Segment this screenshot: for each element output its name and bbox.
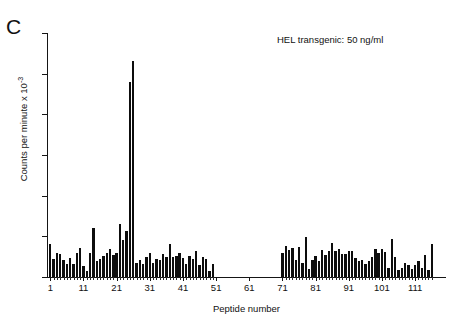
x-axis-tick [117,277,118,281]
plot-area [47,33,445,277]
bar [288,250,290,277]
bar [69,258,71,277]
x-axis-tick-label: 1 [48,283,53,293]
x-axis-tick-label: 91 [344,283,355,293]
x-axis-minor-tick [342,277,343,280]
x-axis-tick-label: 101 [374,283,390,293]
bar [411,269,413,277]
bar [115,253,117,277]
x-axis-minor-tick [210,277,211,280]
x-axis-minor-tick [213,277,214,280]
bar [129,82,131,277]
x-axis-minor-tick [292,277,293,280]
x-axis-minor-tick [299,277,300,280]
bar [427,270,429,277]
bar [112,255,114,277]
bar [301,263,303,277]
bar [135,263,137,277]
x-axis-minor-tick [362,277,363,280]
bar [79,248,81,277]
bar [298,247,300,277]
bar [328,251,330,277]
bar [414,265,416,277]
x-axis-tick-label: 11 [79,283,89,293]
x-axis-minor-tick [402,277,403,280]
bar [324,255,326,277]
x-axis-minor-tick [289,277,290,280]
bar [132,61,134,277]
x-axis-minor-tick [64,277,65,280]
x-axis-minor-tick [319,277,320,280]
x-axis-tick [83,277,84,281]
bar [102,256,104,277]
bar [351,251,353,277]
bar [82,266,84,277]
bar [358,261,360,277]
x-axis-minor-tick [60,277,61,280]
x-axis-minor-tick [97,277,98,280]
x-axis-minor-tick [186,277,187,280]
x-axis-minor-tick [180,277,181,280]
x-axis-minor-tick [57,277,58,280]
bar [397,270,399,277]
bar [285,246,287,277]
x-axis-minor-tick [296,277,297,280]
x-axis-minor-tick [80,277,81,280]
bar [56,253,58,277]
x-axis-minor-tick [107,277,108,280]
bar [212,264,214,277]
x-axis-title: Peptide number [47,303,446,314]
x-axis-minor-tick [302,277,303,280]
bar [62,260,64,277]
bar [169,244,171,277]
bar [401,268,403,277]
x-axis-minor-tick [399,277,400,280]
bar [291,248,293,277]
bar [155,259,157,277]
x-axis-tick [50,277,51,281]
x-axis-minor-tick [133,277,134,280]
x-axis-minor-tick [67,277,68,280]
bar [348,251,350,277]
bar [368,261,370,277]
bar [404,263,406,277]
bar [119,224,121,277]
x-axis-minor-tick [352,277,353,280]
x-axis-minor-tick [332,277,333,280]
panel-label: C [6,16,21,37]
x-axis-minor-tick [113,277,114,280]
bar [125,231,127,277]
bar [145,257,147,277]
x-axis-minor-tick [120,277,121,280]
x-axis-minor-tick [392,277,393,280]
x-axis-minor-tick [203,277,204,280]
bar [295,260,297,277]
x-axis-minor-tick [375,277,376,280]
bar [139,260,141,277]
x-axis-tick [349,277,350,281]
x-axis-minor-tick [405,277,406,280]
bar [311,260,313,277]
x-axis-minor-tick [336,277,337,280]
x-axis-minor-tick [100,277,101,280]
x-axis-tick-label: 111 [408,283,422,293]
bar [92,228,94,277]
x-axis-minor-tick [365,277,366,280]
bar [361,260,363,277]
x-axis-minor-tick [346,277,347,280]
bar [165,257,167,277]
bar [122,240,124,277]
bar [175,256,177,277]
bar [338,249,340,277]
bar [72,264,74,277]
x-axis-tick-label: 21 [111,283,122,293]
bar [384,252,386,277]
y-axis-title: Counts per minute x 10-3 [17,64,29,194]
bar [182,258,184,277]
bar [198,265,200,277]
x-axis-minor-tick [432,277,433,280]
x-axis-tick [316,277,317,281]
bar [76,253,78,277]
x-axis-minor-tick [309,277,310,280]
x-axis-tick-label: 81 [310,283,321,293]
